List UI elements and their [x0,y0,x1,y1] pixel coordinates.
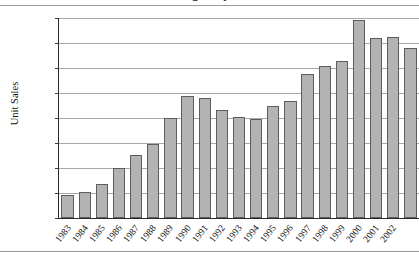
bar-chart-figure: U.S. Sales of Widgets by Year, 1983–2002… [0,0,419,257]
bar [96,184,108,219]
bar [301,74,313,219]
bar [336,61,348,219]
bar [130,155,142,218]
bar [181,96,193,219]
x-axis-tick-label: 1987 [121,223,141,244]
bottom-divider [0,251,419,252]
x-axis-tick-label: 1991 [190,223,210,244]
x-axis-tick-label: 1995 [259,223,279,244]
x-axis-tick-label: 1992 [207,223,227,244]
x-axis-tick-label: 1984 [70,223,90,244]
x-axis-tick-label: 2001 [361,223,381,244]
title-divider [0,5,419,6]
y-axis-line [58,18,59,219]
x-axis-tick-label: 1993 [224,223,244,244]
bar [79,192,91,218]
bar [404,48,416,218]
x-axis-tick-label: 1989 [156,223,176,244]
x-axis-tick-label: 1999 [327,223,347,244]
y-axis-title: Unit Sales [9,64,20,144]
x-axis-tick-label: 1988 [139,223,159,244]
bar [233,117,245,219]
x-axis-tick-label: 1997 [293,223,313,244]
x-axis-tick-label: 1996 [276,223,296,244]
chart-title: U.S. Sales of Widgets by Year, 1983–2002 [0,0,419,2]
bar [284,101,296,218]
bar [267,106,279,219]
x-axis-tick-label: 1990 [173,223,193,244]
bar [147,144,159,219]
bar [319,66,331,219]
x-axis-tick-label: 2000 [344,223,364,244]
bar [250,119,262,219]
bar [113,168,125,218]
plot-area: 1983198419851986198719881989199019911992… [59,18,419,218]
bar [61,195,73,219]
bar [353,20,365,219]
bar [216,110,228,218]
x-axis-tick-label: 1983 [53,223,73,244]
x-axis-tick-label: 1986 [104,223,124,244]
x-axis-tick-label: 1985 [87,223,107,244]
bar [387,37,399,219]
bar [199,98,211,219]
x-axis-tick-label: 1998 [310,223,330,244]
x-axis-line [58,218,419,219]
bar [370,38,382,218]
bar [164,118,176,218]
x-axis-tick-label: 1994 [241,223,261,244]
x-axis-tick-label: 2002 [379,223,399,244]
